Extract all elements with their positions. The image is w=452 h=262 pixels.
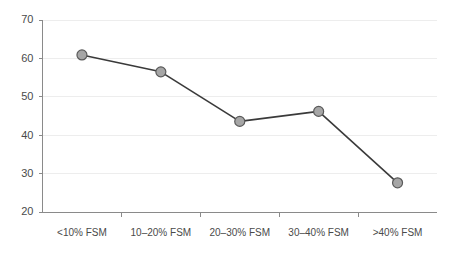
data-point-marker[interactable] — [314, 106, 324, 116]
y-tick-label: 70 — [21, 13, 33, 25]
y-axis-tick-labels: 203040506070 — [21, 13, 42, 217]
data-point-marker[interactable] — [393, 178, 403, 188]
x-tick-label: <10% FSM — [57, 227, 107, 238]
x-axis-tick-labels: <10% FSM10–20% FSM20–30% FSM30–40% FSM>4… — [57, 227, 422, 238]
chart-canvas: 203040506070 <10% FSM10–20% FSM20–30% FS… — [0, 0, 452, 262]
data-point-marker[interactable] — [77, 50, 87, 60]
data-point-marker[interactable] — [235, 116, 245, 126]
data-point-marker[interactable] — [156, 67, 166, 77]
series-markers — [77, 50, 403, 188]
x-tick-label: >40% FSM — [373, 227, 423, 238]
line-chart: 203040506070 <10% FSM10–20% FSM20–30% FS… — [0, 0, 452, 262]
x-tick-label: 10–20% FSM — [131, 227, 192, 238]
x-tick-label: 20–30% FSM — [209, 227, 270, 238]
x-tick-label: 30–40% FSM — [288, 227, 349, 238]
y-tick-label: 60 — [21, 52, 33, 64]
y-tick-label: 20 — [21, 205, 33, 217]
y-tick-label: 30 — [21, 167, 33, 179]
gridlines — [43, 20, 438, 174]
y-tick-label: 40 — [21, 129, 33, 141]
y-tick-label: 50 — [21, 90, 33, 102]
